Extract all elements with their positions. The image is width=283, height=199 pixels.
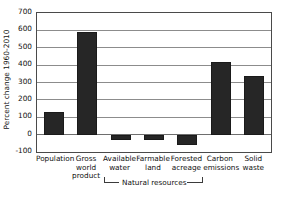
x-tick-label: Availablewater (103, 155, 136, 172)
bar (144, 135, 164, 140)
bracket-line-right (187, 182, 202, 183)
x-tick-label-line: waste (237, 164, 270, 173)
x-tick-label-line: Population (36, 155, 69, 164)
bar (244, 76, 264, 134)
y-tick-label: 200 (18, 95, 32, 103)
bar-series (37, 13, 271, 152)
bracket-tick-right (202, 177, 203, 183)
y-tick-label: 600 (18, 25, 32, 33)
x-axis-tick-labels: PopulationGrossworldproductAvailablewate… (36, 155, 272, 177)
y-axis-tick-labels: 7006005004003002001000-100 (11, 0, 34, 199)
x-tick-label: Farmableland (136, 155, 169, 172)
y-tick-label: -100 (15, 147, 32, 155)
x-tick-label-line: acreage (170, 164, 203, 173)
y-tick-label: 400 (18, 60, 32, 68)
plot-area (36, 12, 272, 153)
x-tick-label: Forestedacreage (170, 155, 203, 172)
bracket-label: Natural resources (122, 178, 184, 187)
x-tick-label: Carbonemissions (203, 155, 236, 172)
x-tick-label: Solidwaste (237, 155, 270, 172)
x-tick-label: Population (36, 155, 69, 164)
y-tick-label: 700 (18, 8, 32, 16)
bar (211, 62, 231, 135)
bar (77, 32, 97, 135)
natural-resources-bracket: Natural resources (36, 176, 272, 190)
x-tick-label-line: emissions (203, 164, 236, 173)
bracket-line-left (104, 182, 119, 183)
bar (177, 135, 197, 145)
x-tick-label-line: water (103, 164, 136, 173)
x-tick-label-line: land (136, 164, 169, 173)
y-tick-label: 100 (18, 112, 32, 120)
bar (44, 112, 64, 135)
y-tick-label: 500 (18, 43, 32, 51)
bar-chart-figure: Percent change 1960-2010 700600500400300… (0, 0, 283, 199)
bar (111, 135, 131, 140)
y-tick-label: 0 (27, 130, 32, 138)
y-tick-label: 300 (18, 78, 32, 86)
